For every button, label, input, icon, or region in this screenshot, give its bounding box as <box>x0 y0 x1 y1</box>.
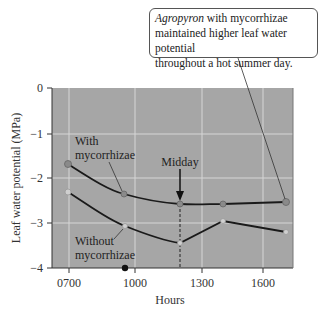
y-tick-2: −2 <box>30 171 43 185</box>
label-with-line2: mycorrhizae <box>75 148 135 162</box>
y-tick-3: −3 <box>30 216 43 230</box>
x-tick-0700: 0700 <box>57 276 81 290</box>
callout-line-2: maintained higher leaf water potential <box>155 26 317 56</box>
y-tick-1: −1 <box>30 127 43 141</box>
y-tick-4: −4 <box>30 261 43 275</box>
x-tick-1300: 1300 <box>190 276 214 290</box>
y-axis-title: Leaf water potential (MPa) <box>9 113 23 243</box>
callout-box: Agropyron with mycorrhizae maintained hi… <box>149 8 318 58</box>
callout-line-1: Agropyron with mycorrhizae <box>155 11 317 26</box>
label-with-line1: With <box>75 134 99 148</box>
x-tick-1000: 1000 <box>123 276 147 290</box>
callout-line-1-rest: with mycorrhizae <box>204 12 288 24</box>
callout-italic-genus: Agropyron <box>155 12 204 24</box>
x-axis-dot-marker <box>122 265 128 271</box>
y-tick-0: 0 <box>37 81 43 95</box>
label-without-line2: mycorrhizae <box>75 248 135 262</box>
callout-line-3: throughout a hot summer day. <box>155 56 317 71</box>
label-without-line1: Without <box>75 234 115 248</box>
midday-label: Midday <box>161 155 198 169</box>
x-tick-1600: 1600 <box>251 276 275 290</box>
x-axis-title: Hours <box>155 293 185 307</box>
